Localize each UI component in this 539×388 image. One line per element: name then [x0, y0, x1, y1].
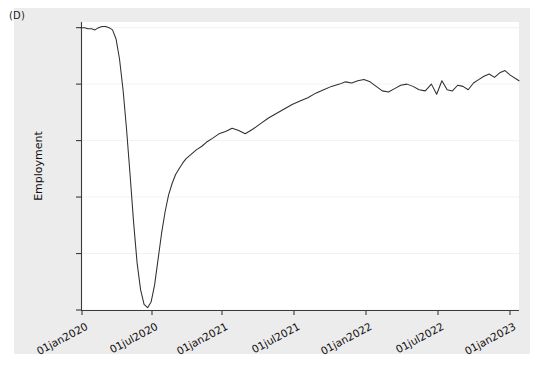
plot-background — [81, 22, 519, 310]
plot-canvas — [0, 0, 539, 388]
figure-panel-d: (D) Employment 0-.05-.1-.15-.2-.25 01jan… — [0, 0, 539, 388]
